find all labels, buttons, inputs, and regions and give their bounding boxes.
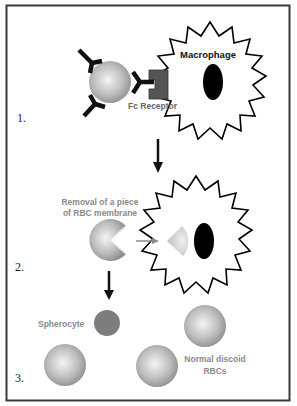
removal-label-line1: Removal of a piece xyxy=(61,197,138,207)
normal-rbc-label-line1: Normal discoid xyxy=(184,354,245,364)
step-3-number: 3. xyxy=(15,371,24,385)
normal-rbc-3 xyxy=(184,305,226,347)
macrophage-nucleus-step2 xyxy=(194,223,214,259)
removal-label-line2: of RBC membrane xyxy=(63,208,137,218)
macrophage-label: Macrophage xyxy=(180,49,236,60)
normal-rbc-2 xyxy=(136,345,178,387)
normal-rbc-1 xyxy=(44,344,86,386)
macrophage-nucleus-step1 xyxy=(203,64,223,100)
spherocyte-label: Spherocyte xyxy=(38,319,85,329)
step-2-number: 2. xyxy=(15,260,24,274)
fc-receptor-label: Fc Receptor xyxy=(128,101,178,111)
spherocyte-formation-diagram: Macrophage Fc Receptor 1. xyxy=(0,0,297,406)
spherocyte xyxy=(94,310,120,336)
normal-rbc-label-line2: RBCs xyxy=(203,366,226,376)
antibody-coated-rbc xyxy=(89,61,131,103)
step-1-number: 1. xyxy=(17,111,26,125)
